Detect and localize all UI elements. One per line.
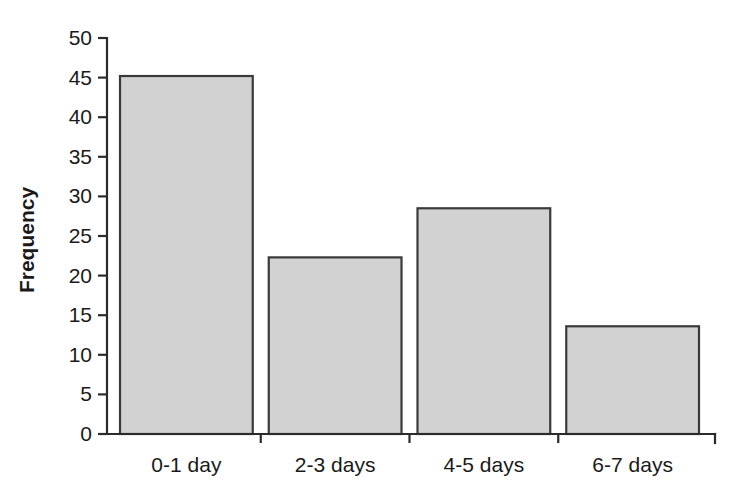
y-tick-label: 40	[69, 105, 92, 128]
y-tick-label: 25	[69, 224, 92, 247]
y-tick-label: 15	[69, 303, 92, 326]
x-category-label-2: 2-3 days	[295, 453, 376, 476]
bar-2	[269, 257, 402, 434]
x-category-label-4: 6-7 days	[592, 453, 673, 476]
y-tick-label: 20	[69, 264, 92, 287]
bar-chart-figure: 05101520253035404550 0-1 day2-3 days4-5 …	[0, 0, 745, 492]
bar-4	[566, 326, 699, 434]
y-tick-label: 50	[69, 26, 92, 49]
x-category-label-3: 4-5 days	[444, 453, 525, 476]
bar-3	[418, 208, 551, 434]
bar-1	[120, 76, 253, 434]
y-tick-label: 30	[69, 184, 92, 207]
y-axis-title: Frequency	[15, 187, 38, 294]
y-tick-label: 5	[80, 382, 92, 405]
y-tick-label: 10	[69, 343, 92, 366]
y-tick-label: 45	[69, 66, 92, 89]
y-tick-label: 0	[80, 422, 92, 445]
x-category-label-1: 0-1 day	[151, 453, 222, 476]
chart-canvas: 05101520253035404550 0-1 day2-3 days4-5 …	[0, 0, 745, 492]
y-tick-label: 35	[69, 145, 92, 168]
